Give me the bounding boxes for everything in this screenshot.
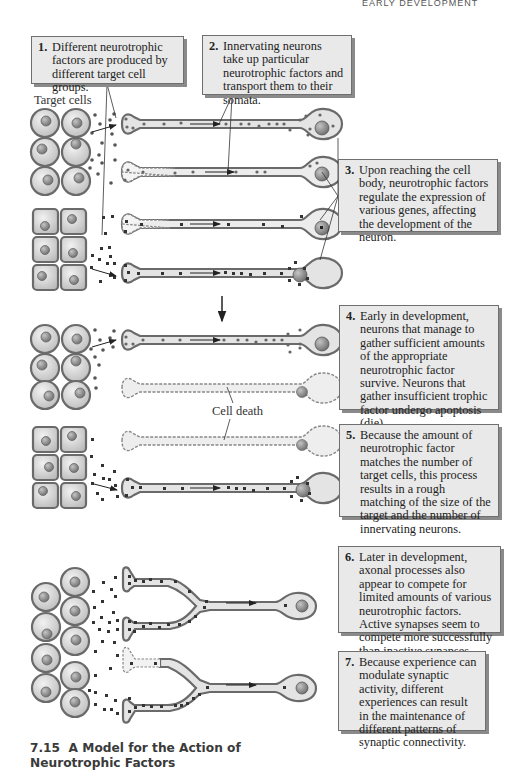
staggered-target-cells bbox=[32, 568, 89, 717]
neuron-row-2 bbox=[122, 157, 342, 187]
callout-4-text: Early in development, neurons that manag… bbox=[360, 310, 492, 431]
callout-5: 5. Because the amount of neurotrophic fa… bbox=[339, 424, 499, 517]
neuron-dying-1 bbox=[122, 373, 342, 403]
branched-neuron-1 bbox=[123, 567, 316, 640]
callout-6-number: 6. bbox=[345, 551, 354, 564]
callout-4: 4. Early in development, neurons that ma… bbox=[339, 305, 499, 410]
cell-death-label: Cell death bbox=[212, 404, 263, 419]
round-factor-particles-2 bbox=[89, 328, 116, 390]
round-target-cells-group-2 bbox=[31, 325, 90, 409]
callout-1-number: 1. bbox=[38, 41, 47, 54]
callout-7-number: 7. bbox=[345, 656, 354, 669]
callout-2-leaders bbox=[219, 96, 232, 172]
round-target-cells-group-1 bbox=[31, 109, 90, 195]
figure-caption: 7.15 A Model for the Action of Neurotrop… bbox=[30, 741, 320, 771]
neuron-row-4 bbox=[122, 258, 342, 288]
square-factor-particles-2 bbox=[90, 438, 119, 501]
callout-7-text: Because experience can modulate synaptic… bbox=[359, 656, 479, 750]
callout-3-number: 3. bbox=[345, 164, 354, 177]
callout-7: 7. Because experience can modulate synap… bbox=[338, 651, 486, 731]
callout-4-number: 4. bbox=[346, 310, 355, 323]
callout-3: 3. Upon reaching the cell body, neurotro… bbox=[338, 159, 498, 232]
callout-2-text: Innervating neurons take up particular n… bbox=[223, 40, 345, 107]
neuron-dying-2 bbox=[122, 426, 342, 456]
square-target-cells-group-2 bbox=[33, 427, 86, 508]
target-cells-label: Target cells bbox=[34, 93, 92, 108]
callout-1: 1. Different neurotrophic factors are pr… bbox=[31, 36, 184, 84]
neuron-surviving-1 bbox=[122, 325, 342, 355]
callout-5-text: Because the amount of neurotrophic facto… bbox=[360, 429, 492, 536]
callout-6-text: Later in development, axonal processes a… bbox=[359, 551, 494, 658]
callout-5-number: 5. bbox=[346, 429, 355, 442]
neuron-row-1 bbox=[122, 109, 342, 139]
callout-1-text: Different neurotrophic factors are produ… bbox=[52, 41, 177, 95]
figure-title: A Model for the Action of Neurotrophic F… bbox=[30, 741, 241, 770]
callout-6: 6. Later in development, axonal processe… bbox=[338, 546, 501, 633]
branched-neuron-2 bbox=[123, 647, 316, 722]
round-factor-particles-1 bbox=[88, 112, 117, 185]
neuron-row-3 bbox=[122, 209, 342, 239]
figure-number: 7.15 bbox=[30, 741, 60, 755]
square-target-cells-group-1 bbox=[33, 209, 86, 290]
callout-2: 2. Innervating neurons take up particula… bbox=[202, 35, 352, 95]
square-factor-particles-3 bbox=[88, 576, 119, 715]
neuron-surviving-2 bbox=[122, 473, 342, 503]
square-factor-particles-1 bbox=[90, 215, 116, 283]
callout-2-number: 2. bbox=[209, 40, 218, 53]
callout-3-text: Upon reaching the cell body, neurotrophi… bbox=[359, 164, 491, 244]
